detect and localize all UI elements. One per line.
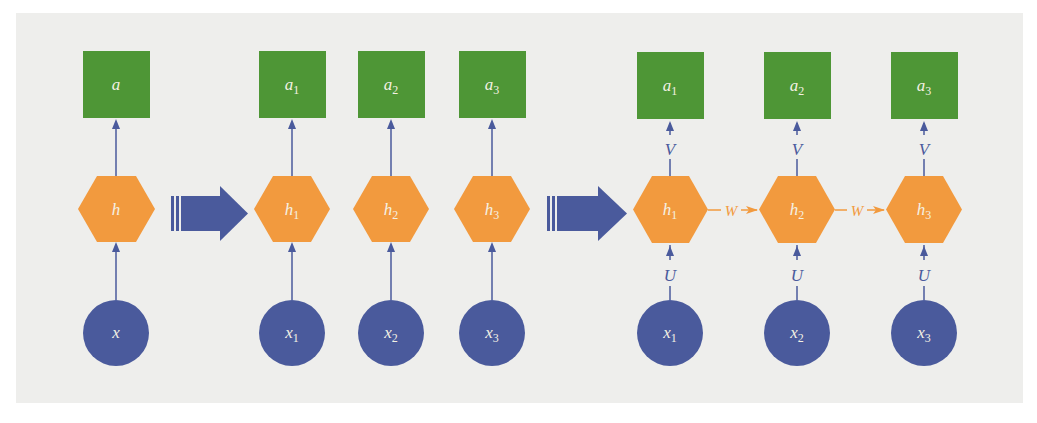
input-node-label: x bbox=[111, 323, 120, 342]
weight-label-w: W bbox=[851, 203, 865, 219]
arrowhead-icon bbox=[488, 119, 496, 129]
arrowhead-icon bbox=[387, 242, 395, 252]
transition-arrow-icon bbox=[171, 186, 248, 241]
rnn-diagram: a h x a1 h1 x1 a2 h2 x2 bbox=[0, 0, 1037, 423]
arrowhead-icon bbox=[112, 119, 120, 129]
transition-arrow-icon bbox=[547, 186, 627, 241]
arrowhead-icon bbox=[793, 246, 801, 256]
arrowhead-icon bbox=[288, 119, 296, 129]
arrowhead-icon bbox=[488, 242, 496, 252]
hidden-node-label: h bbox=[112, 200, 121, 219]
stage3-group: W W U V a1 h1 x1 U V a2 h2 x2 bbox=[633, 52, 962, 366]
weight-label-u: U bbox=[664, 266, 678, 285]
arrowhead-icon bbox=[920, 121, 928, 131]
arrowhead-icon bbox=[666, 121, 674, 131]
weight-label-w: W bbox=[725, 203, 739, 219]
output-node-label: a bbox=[112, 75, 121, 94]
arrowhead-icon bbox=[793, 121, 801, 131]
arrowhead-icon bbox=[288, 242, 296, 252]
stage2-group: a1 h1 x1 a2 h2 x2 a3 h3 x3 bbox=[254, 51, 530, 366]
weight-label-u: U bbox=[791, 266, 805, 285]
arrowhead-icon bbox=[920, 246, 928, 256]
arrowhead-icon bbox=[112, 242, 120, 252]
arrowhead-icon bbox=[666, 246, 674, 256]
stage1-group: a h x bbox=[78, 51, 155, 366]
arrowhead-icon bbox=[387, 119, 395, 129]
weight-label-u: U bbox=[918, 266, 932, 285]
